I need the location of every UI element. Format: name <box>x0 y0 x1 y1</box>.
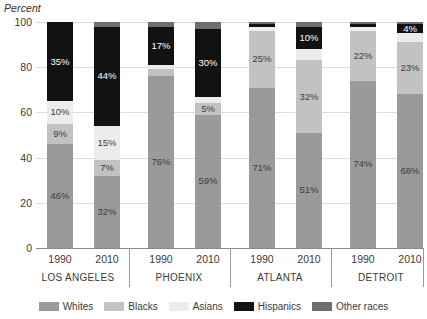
y-tick-60: 60 <box>2 107 32 118</box>
chart-legend: WhitesBlacksAsiansHispanicsOther races <box>0 298 427 314</box>
bar-segment-blacks: 23% <box>397 42 423 94</box>
legend-item-hispanics[interactable]: Hispanics <box>234 301 301 312</box>
bar-atlanta-1990[interactable]: 25%71% <box>249 22 275 248</box>
x-tick-year-atlanta-2010: 2010 <box>289 253 329 265</box>
bar-segment-other <box>195 22 221 29</box>
bar-segment-value-label: 17% <box>148 41 174 51</box>
bar-segment-asians <box>296 49 322 60</box>
group-separator-1 <box>230 248 231 287</box>
legend-swatch-whites-icon <box>39 302 59 311</box>
y-tick-20: 20 <box>2 198 32 209</box>
bar-segment-blacks <box>148 69 174 76</box>
x-tick-year-los-angeles-2010: 2010 <box>87 253 127 265</box>
x-tick-year-atlanta-1990: 1990 <box>242 253 282 265</box>
bar-segment-value-label: 7% <box>94 163 120 173</box>
bar-segment-value-label: 25% <box>249 54 275 64</box>
bar-segment-value-label: 22% <box>350 51 376 61</box>
x-tick-year-phoenix-1990: 1990 <box>141 253 181 265</box>
bar-segment-asians: 10% <box>47 101 73 124</box>
legend-swatch-asians-icon <box>169 302 189 311</box>
legend-item-other[interactable]: Other races <box>312 301 388 312</box>
bar-segment-hispanics: 10% <box>296 27 322 50</box>
bar-segment-blacks: 7% <box>94 160 120 176</box>
bar-segment-whites: 68% <box>397 94 423 248</box>
bar-segment-value-label: 59% <box>195 176 221 186</box>
bar-segment-value-label: 46% <box>47 191 73 201</box>
bar-segment-whites: 71% <box>249 88 275 248</box>
group-separator-2 <box>331 248 332 287</box>
bar-segment-value-label: 10% <box>296 33 322 43</box>
bar-segment-value-label: 71% <box>249 163 275 173</box>
bar-segment-whites: 76% <box>148 76 174 248</box>
bar-segment-value-label: 74% <box>350 159 376 169</box>
legend-label: Blacks <box>128 301 157 312</box>
bar-segment-whites: 46% <box>47 144 73 248</box>
bar-segment-blacks: 9% <box>47 124 73 144</box>
x-tick-year-detroit-2010: 2010 <box>390 253 427 265</box>
x-tick-year-detroit-1990: 1990 <box>343 253 383 265</box>
bar-phoenix-1990[interactable]: 17%76% <box>148 22 174 248</box>
legend-swatch-other-icon <box>312 302 332 311</box>
bar-phoenix-2010[interactable]: 30%5%59% <box>195 22 221 248</box>
y-tick-0: 0 <box>2 243 32 254</box>
bar-los-angeles-2010[interactable]: 44%15%7%32% <box>94 22 120 248</box>
y-tick-40: 40 <box>2 153 32 164</box>
x-axis-group-atlanta: ATLANTA <box>225 272 335 283</box>
legend-swatch-hispanics-icon <box>234 302 254 311</box>
bar-segment-whites: 59% <box>195 115 221 248</box>
bar-segment-hispanics: 4% <box>397 24 423 33</box>
bar-segment-asians <box>397 33 423 42</box>
bar-segment-value-label: 35% <box>47 57 73 67</box>
bar-detroit-1990[interactable]: 22%74% <box>350 22 376 248</box>
bar-segment-whites: 32% <box>94 176 120 248</box>
legend-label: Hispanics <box>258 301 301 312</box>
group-separator-0 <box>129 248 130 287</box>
bar-segment-blacks: 32% <box>296 60 322 132</box>
plot-area: 35%10%9%46%44%15%7%32%17%76%30%5%59%25%7… <box>36 22 423 248</box>
bar-segment-whites: 51% <box>296 133 322 248</box>
bar-segment-value-label: 51% <box>296 185 322 195</box>
x-tick-year-phoenix-2010: 2010 <box>188 253 228 265</box>
legend-swatch-blacks-icon <box>104 302 124 311</box>
legend-item-asians[interactable]: Asians <box>169 301 223 312</box>
bar-segment-value-label: 32% <box>296 92 322 102</box>
bar-segment-blacks: 5% <box>195 103 221 114</box>
x-axis-group-phoenix: PHOENIX <box>124 272 234 283</box>
legend-label: Whites <box>63 301 94 312</box>
bar-segment-blacks: 22% <box>350 31 376 81</box>
bar-segment-hispanics: 44% <box>94 27 120 126</box>
bar-segment-hispanics: 30% <box>195 29 221 97</box>
stacked-bar-chart: Percent 020406080100 35%10%9%46%44%15%7%… <box>0 0 427 319</box>
bar-segment-value-label: 10% <box>47 107 73 117</box>
x-tick-year-los-angeles-1990: 1990 <box>40 253 80 265</box>
y-tick-100: 100 <box>2 17 32 28</box>
bar-segment-value-label: 44% <box>94 71 120 81</box>
bar-segment-value-label: 30% <box>195 58 221 68</box>
y-tick-80: 80 <box>2 62 32 73</box>
bar-atlanta-2010[interactable]: 10%32%51% <box>296 22 322 248</box>
bar-segment-value-label: 32% <box>94 207 120 217</box>
y-axis-title: Percent <box>4 2 41 14</box>
group-separator-3 <box>423 248 424 287</box>
bar-detroit-2010[interactable]: 4%23%68% <box>397 22 423 248</box>
y-axis-tick-labels: 020406080100 <box>0 22 32 248</box>
bar-segment-blacks: 25% <box>249 31 275 88</box>
legend-item-blacks[interactable]: Blacks <box>104 301 157 312</box>
x-axis: 19902010199020101990201019902010LOS ANGE… <box>36 248 423 294</box>
bar-segment-value-label: 68% <box>397 166 423 176</box>
bar-segment-whites: 74% <box>350 81 376 248</box>
x-axis-group-detroit: DETROIT <box>326 272 427 283</box>
bar-segment-value-label: 9% <box>47 129 73 139</box>
legend-label: Other races <box>336 301 388 312</box>
bar-los-angeles-1990[interactable]: 35%10%9%46% <box>47 22 73 248</box>
bar-segment-asians: 15% <box>94 126 120 160</box>
legend-label: Asians <box>193 301 223 312</box>
bar-segment-value-label: 76% <box>148 157 174 167</box>
bar-segment-hispanics: 17% <box>148 27 174 65</box>
bar-segment-value-label: 5% <box>195 104 221 114</box>
x-axis-group-los-angeles: LOS ANGELES <box>23 272 133 283</box>
legend-item-whites[interactable]: Whites <box>39 301 94 312</box>
bar-segment-hispanics: 35% <box>47 22 73 101</box>
bar-segment-value-label: 23% <box>397 63 423 73</box>
bar-segment-value-label: 15% <box>94 138 120 148</box>
